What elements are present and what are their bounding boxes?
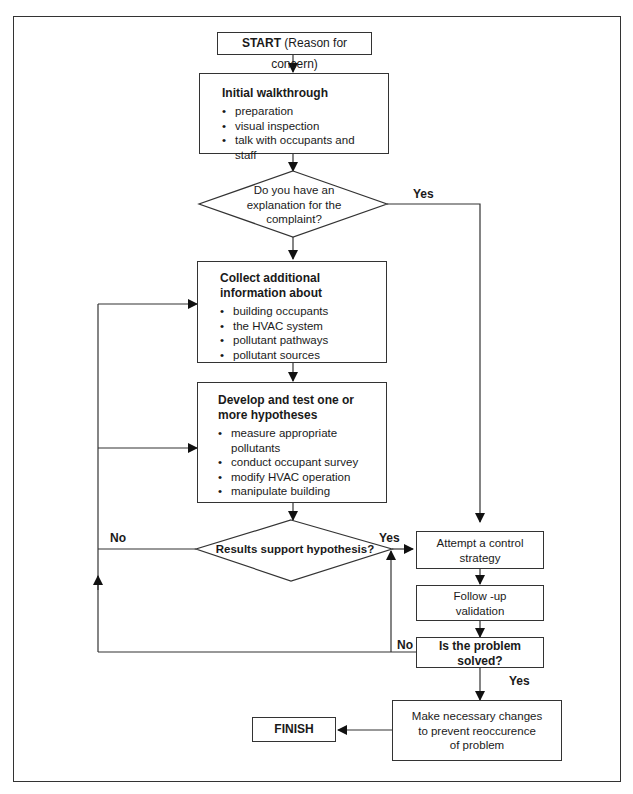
solved-line: solved?: [417, 654, 543, 669]
start-label: START: [242, 36, 281, 50]
list-item: pollutant pathways: [220, 333, 376, 348]
collect-title-line: Collect additional: [220, 271, 376, 286]
followup-line: validation: [417, 604, 543, 619]
list-item: building occupants: [220, 304, 376, 319]
develop-title-line: more hypotheses: [218, 408, 378, 423]
problem-solved-box: Is the problem solved?: [416, 637, 544, 668]
attempt-control-box: Attempt a control strategy: [416, 531, 544, 569]
finish-label: FINISH: [274, 722, 313, 736]
attempt-line: strategy: [417, 551, 543, 566]
develop-title-line: Develop and test one or: [218, 393, 378, 408]
list-item: measure appropriate pollutants: [218, 426, 361, 455]
changes-line: of problem: [393, 738, 561, 753]
initial-walkthrough-title: Initial walkthrough: [222, 86, 378, 101]
list-item: manipulate building: [218, 484, 378, 499]
list-item: talk with occupants and staff: [222, 133, 378, 162]
list-item: modify HVAC operation: [218, 470, 378, 485]
decision-line: explanation for the: [229, 198, 359, 213]
followup-validation-box: Follow -up validation: [416, 585, 544, 621]
yes-label-solved: Yes: [509, 674, 530, 688]
changes-line: to prevent reoccurence: [393, 724, 561, 739]
initial-walkthrough-box: Initial walkthrough preparation visual i…: [199, 73, 389, 154]
list-item: preparation: [222, 104, 378, 119]
collect-title-line: information about: [220, 286, 376, 301]
list-item: pollutant sources: [220, 348, 376, 363]
make-changes-box: Make necessary changes to prevent reoccu…: [392, 700, 562, 761]
changes-line: Make necessary changes: [393, 709, 561, 724]
attempt-line: Attempt a control: [417, 536, 543, 551]
develop-hypotheses-box: Develop and test one or more hypotheses …: [197, 382, 387, 503]
yes-label-explanation: Yes: [413, 187, 434, 201]
no-label-solved: No: [397, 638, 413, 652]
list-item: visual inspection: [222, 119, 378, 134]
decision-explanation: Do you have an explanation for the compl…: [229, 183, 359, 227]
finish-box: FINISH: [252, 717, 336, 742]
no-label-results: No: [110, 531, 126, 545]
decision-results-support: Results support hypothesis?: [205, 542, 385, 557]
solved-line: Is the problem: [417, 639, 543, 654]
decision-line: Do you have an: [229, 183, 359, 198]
start-box: START (Reason for concern): [217, 32, 372, 55]
decision-line: complaint?: [229, 212, 359, 227]
list-item: the HVAC system: [220, 319, 376, 334]
yes-label-results: Yes: [379, 531, 400, 545]
followup-line: Follow -up: [417, 589, 543, 604]
collect-info-box: Collect additional information about bui…: [197, 261, 387, 363]
list-item: conduct occupant survey: [218, 455, 378, 470]
